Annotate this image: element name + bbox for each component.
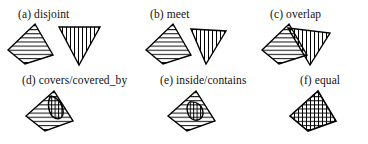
panel-art-b bbox=[144, 21, 248, 71]
panel-art-f bbox=[286, 88, 362, 138]
quad-hatch-fill-e bbox=[166, 88, 246, 138]
meet-diagram bbox=[144, 21, 248, 71]
panel-label-a: (a) disjoint bbox=[18, 8, 69, 21]
quad-hatch-fill-b bbox=[144, 21, 248, 71]
panel-disjoint: (a) disjoint bbox=[6, 8, 124, 72]
quad-hatch-fill-d bbox=[24, 88, 104, 138]
panel-label-b: (b) meet bbox=[150, 8, 189, 21]
panel-equal: (f) equal bbox=[280, 74, 366, 140]
quad-crosshatch-fill-f bbox=[286, 88, 362, 138]
equal-diagram bbox=[286, 88, 362, 138]
topological-relations-figure: (a) disjoint bbox=[0, 0, 368, 144]
panel-covers-covered-by: (d) covers/covered_by bbox=[14, 74, 150, 140]
inside-diagram bbox=[166, 88, 246, 138]
covers-diagram bbox=[24, 88, 104, 138]
panel-art-d bbox=[24, 88, 104, 138]
panel-label-f: (f) equal bbox=[300, 74, 340, 87]
disjoint-diagram bbox=[6, 21, 124, 71]
panel-art-c bbox=[258, 21, 362, 71]
panel-label-c: (c) overlap bbox=[270, 8, 321, 21]
panel-inside-contains: (e) inside/contains bbox=[152, 74, 264, 140]
panel-label-e: (e) inside/contains bbox=[160, 74, 247, 87]
panel-art-a bbox=[6, 21, 124, 71]
overlap-diagram bbox=[258, 21, 362, 71]
panel-overlap: (c) overlap bbox=[258, 8, 366, 72]
panel-art-e bbox=[166, 88, 246, 138]
panel-label-d: (d) covers/covered_by bbox=[22, 74, 127, 87]
panel-meet: (b) meet bbox=[136, 8, 246, 72]
